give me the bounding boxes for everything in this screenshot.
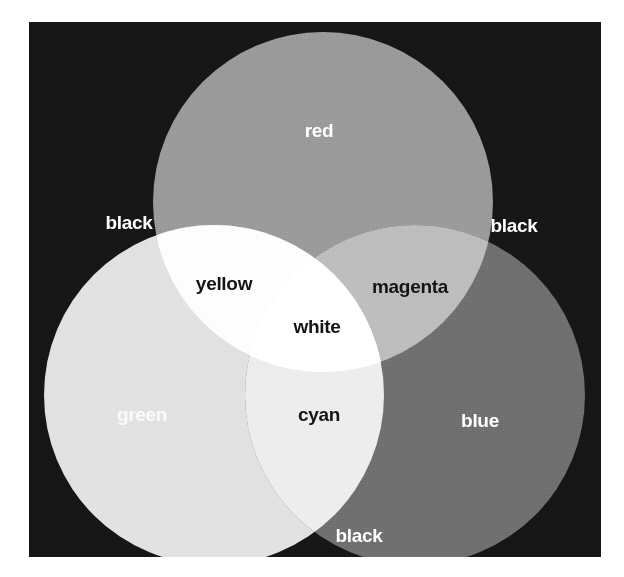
label-red: red (305, 121, 334, 140)
label-magenta: magenta (372, 277, 448, 296)
label-black-bottom: black (335, 526, 382, 545)
label-yellow: yellow (196, 274, 252, 293)
overlap-clip-white-inner (245, 225, 384, 557)
label-blue: blue (461, 411, 499, 430)
diagram-plate: red black black black yellow magenta whi… (29, 22, 601, 557)
color-venn-figure: red black black black yellow magenta whi… (0, 0, 624, 577)
label-cyan: cyan (298, 405, 340, 424)
label-white: white (293, 317, 340, 336)
label-black-top-right: black (490, 216, 537, 235)
label-black-top-left: black (105, 213, 152, 232)
label-green: green (117, 405, 167, 424)
region-white (245, 225, 384, 372)
